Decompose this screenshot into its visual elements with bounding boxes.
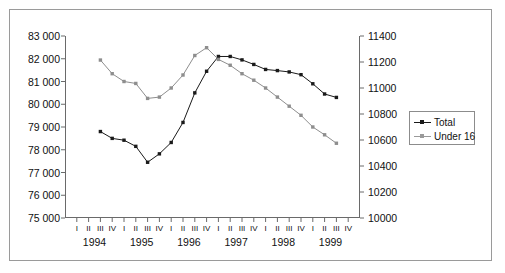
right-axis-tick-label: 11400 [368,31,412,41]
legend-marker-total-icon [414,118,431,127]
data-point-under-16 [335,142,338,145]
data-point-total [229,55,232,58]
data-point-under-16 [146,97,149,100]
data-point-total [299,73,302,76]
right-axis-tick-label: 10600 [368,135,412,145]
data-point-under-16 [158,95,161,98]
data-point-under-16 [288,105,291,108]
legend-item-total[interactable]: Total [414,115,470,129]
data-point-total [240,58,243,61]
x-axis-year-label: 1998 [258,237,308,248]
data-point-under-16 [122,80,125,83]
right-axis-tick-label: 11000 [368,83,412,93]
data-point-total [288,70,291,73]
data-point-under-16 [264,86,267,89]
right-axis-tick-label: 10800 [368,109,412,119]
x-axis-year-label: 1994 [70,237,120,248]
data-point-under-16 [170,86,173,89]
data-point-total [252,63,255,66]
data-point-total [111,137,114,140]
left-axis-tick-label: 82 000 [12,54,60,64]
x-axis-year-label: 1995 [117,237,167,248]
data-point-under-16 [134,82,137,85]
data-point-total [158,152,161,155]
data-point-total [323,92,326,95]
data-point-total [181,121,184,124]
legend-label-under-16: Under 16 [434,131,475,142]
data-point-under-16 [299,114,302,117]
legend-marker-under-16-icon [414,132,431,141]
data-point-under-16 [229,64,232,67]
data-point-total [134,145,137,148]
data-point-under-16 [193,54,196,57]
x-axis-year-label: 1996 [164,237,214,248]
data-point-under-16 [111,72,114,75]
left-axis-tick-label: 78 000 [12,145,60,155]
right-axis-tick-label: 11200 [368,57,412,67]
right-axis-tick-label: 10200 [368,187,412,197]
data-point-total [122,139,125,142]
x-axis-quarter-label: IV [340,225,356,233]
data-point-total [264,68,267,71]
left-axis-tick-label: 81 000 [12,77,60,87]
data-point-total [170,141,173,144]
chart-legend: Total Under 16 [409,111,475,145]
left-axis-tick-label: 76 000 [12,190,60,200]
data-point-total [335,96,338,99]
data-point-under-16 [181,73,184,76]
left-axis-tick-label: 80 000 [12,99,60,109]
data-point-under-16 [99,58,102,61]
data-point-under-16 [323,133,326,136]
data-point-total [99,130,102,133]
data-point-under-16 [205,46,208,49]
left-axis-tick-label: 77 000 [12,168,60,178]
data-point-total [276,69,279,72]
left-axis-tick-label: 79 000 [12,122,60,132]
data-point-under-16 [252,79,255,82]
data-point-under-16 [311,125,314,128]
right-axis-tick-label: 10400 [368,161,412,171]
chart-screenshot: 75 00076 00077 00078 00079 00080 00081 0… [0,0,505,273]
x-axis-year-label: 1997 [211,237,261,248]
data-point-under-16 [240,72,243,75]
data-point-total [205,70,208,73]
left-axis-tick-label: 83 000 [12,31,60,41]
legend-item-under-16[interactable]: Under 16 [414,129,470,143]
series-line-under-16 [100,48,336,144]
data-point-total [146,161,149,164]
data-point-under-16 [217,58,220,61]
x-axis-year-label: 1999 [306,237,356,248]
left-axis-tick-label: 75 000 [12,213,60,223]
data-point-total [311,82,314,85]
legend-label-total: Total [434,117,455,128]
data-point-total [193,91,196,94]
data-point-under-16 [276,95,279,98]
right-axis-tick-label: 10000 [368,213,412,223]
